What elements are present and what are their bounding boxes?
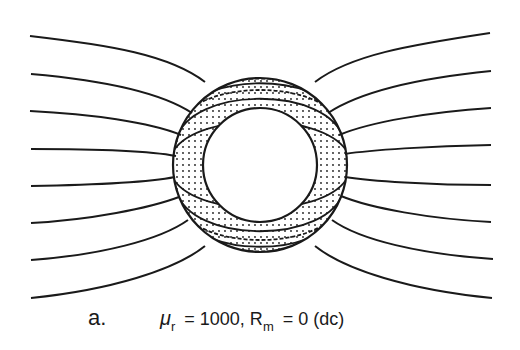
field-line bbox=[31, 197, 179, 223]
field-line bbox=[332, 220, 493, 259]
field-line bbox=[31, 220, 188, 260]
field-line bbox=[345, 177, 491, 185]
figure-label: a. bbox=[88, 305, 106, 331]
field-line bbox=[328, 71, 491, 113]
field-line bbox=[30, 36, 205, 82]
field-line-diagram bbox=[0, 0, 520, 350]
mu-symbol: μ bbox=[160, 307, 171, 329]
field-line bbox=[31, 149, 176, 156]
field-line bbox=[30, 111, 181, 135]
mu-value: = 1000, R bbox=[179, 309, 263, 329]
rm-subscript: m bbox=[263, 319, 274, 334]
field-line bbox=[341, 196, 491, 222]
field-line bbox=[31, 177, 175, 186]
figure-caption: a. μr = 1000, Rm = 0 (dc) bbox=[0, 305, 520, 335]
field-line bbox=[31, 74, 192, 113]
rm-value: = 0 (dc) bbox=[278, 309, 345, 329]
field-line bbox=[345, 145, 491, 154]
field-line bbox=[339, 108, 491, 135]
field-line bbox=[315, 246, 492, 298]
field-line bbox=[31, 246, 205, 298]
parameter-equation: μr = 1000, Rm = 0 (dc) bbox=[160, 307, 344, 334]
mu-subscript: r bbox=[171, 319, 175, 334]
